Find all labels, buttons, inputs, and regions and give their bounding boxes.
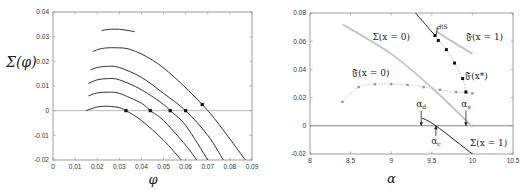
- right-marker: [374, 83, 376, 85]
- left-series-curve-2: [88, 92, 196, 160]
- arrow-head-icon: [464, 122, 468, 126]
- right-marker: [455, 91, 457, 93]
- right-marker: [390, 83, 392, 85]
- left-y-tick-label: -0.02: [34, 156, 49, 163]
- right-marker: [341, 101, 343, 103]
- left-x-tick-label: 0.07: [201, 163, 214, 170]
- right-x-tick-label: 10: [469, 157, 477, 164]
- right-y-tick-label: 0.04: [293, 66, 306, 73]
- right-annotation: αs: [461, 99, 470, 110]
- right-x-tick-label: 8.5: [346, 157, 355, 164]
- left-marker: [169, 109, 172, 112]
- left-y-tick-label: 0: [45, 107, 49, 114]
- right-annotation: 𝔉(x = 1): [466, 32, 503, 42]
- left-x-tick-label: 0.02: [91, 163, 104, 170]
- right-y-tick-label: 0.02: [293, 94, 306, 101]
- right-marker: [437, 39, 440, 42]
- right-marker: [406, 84, 408, 86]
- left-series-curve-6: [102, 29, 135, 32]
- right-y-tick-label: 0: [302, 122, 306, 129]
- left-plot-frame: [53, 12, 252, 160]
- right-x-axis-label: α: [387, 171, 396, 186]
- right-annotation: Σ(x = 0): [372, 32, 409, 42]
- left-x-tick-label: 0: [51, 163, 55, 170]
- arrow-head-icon: [419, 122, 423, 126]
- right-y-tick-label: -0.02: [291, 150, 306, 157]
- right-marker: [439, 89, 441, 91]
- right-annotation: 𝔉(x*): [465, 71, 488, 81]
- right-marker: [471, 92, 473, 94]
- right-series-f-rs: [416, 13, 435, 36]
- left-marker: [149, 109, 152, 112]
- right-marker: [461, 77, 464, 80]
- left-series-curve-3: [88, 79, 207, 160]
- left-y-tick-label: -0.01: [34, 132, 49, 139]
- right-x-tick-label: 8: [308, 157, 312, 164]
- right-x-tick-label: 9.5: [427, 157, 436, 164]
- left-chart: 00.010.020.030.040.050.060.070.080.090.0…: [5, 8, 259, 187]
- left-x-tick-label: 0.05: [157, 163, 170, 170]
- right-annotation: 𝔉(x = 0): [352, 68, 389, 78]
- right-annotation: αc: [431, 136, 441, 147]
- left-x-tick-label: 0.09: [246, 163, 259, 170]
- right-series--x-0-: [342, 84, 472, 102]
- right-marker: [464, 90, 467, 93]
- right-marker: [358, 86, 360, 88]
- figure: 00.010.020.030.040.050.060.070.080.090.0…: [0, 0, 520, 190]
- right-x-tick-label: 10.5: [507, 157, 520, 164]
- left-series-curve-5: [93, 48, 246, 160]
- right-annotation: fRS: [435, 23, 448, 35]
- left-series-curve-1: [86, 106, 181, 160]
- left-y-tick-label: 0.02: [36, 58, 49, 65]
- left-x-tick-label: 0.04: [135, 163, 148, 170]
- left-y-tick-label: 0.03: [36, 33, 49, 40]
- right-annotation: αd: [416, 99, 426, 110]
- right-chart: 88.599.51010.50.080.060.040.020-0.02Σ(x …: [291, 9, 520, 186]
- right-marker: [445, 48, 448, 51]
- right-annotation: Σ(x = 1): [470, 138, 507, 148]
- left-series-curve-4: [91, 66, 224, 160]
- left-y-axis-label: Σ(φ): [5, 54, 37, 70]
- left-marker: [201, 103, 204, 106]
- right-y-tick-label: 0.08: [293, 9, 306, 16]
- right-x-tick-label: 9: [389, 157, 393, 164]
- right-series--x-: [435, 36, 466, 92]
- left-x-tick-label: 0.08: [224, 163, 237, 170]
- left-marker: [124, 109, 127, 112]
- left-y-tick-label: 0.04: [36, 8, 49, 15]
- right-marker: [422, 86, 424, 88]
- left-x-tick-label: 0.03: [113, 163, 126, 170]
- left-marker: [184, 109, 187, 112]
- right-y-tick-label: 0.06: [293, 38, 306, 45]
- left-y-tick-label: 0.01: [36, 82, 49, 89]
- right-marker: [453, 62, 456, 65]
- left-x-tick-label: 0.06: [179, 163, 192, 170]
- left-x-axis-label: φ: [148, 172, 158, 187]
- left-x-tick-label: 0.01: [69, 163, 82, 170]
